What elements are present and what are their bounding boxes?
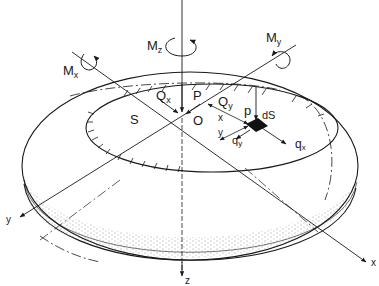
svg-text:My: My — [266, 30, 282, 47]
qx-arrow — [262, 128, 286, 144]
svg-text:Mx: Mx — [63, 63, 79, 80]
label-axis-x: x — [371, 257, 376, 268]
label-O: O — [193, 113, 203, 128]
label-axis-y: y — [6, 214, 11, 225]
label-p: p — [244, 103, 251, 118]
label-y-dim: y — [218, 127, 223, 138]
svg-text:qx: qx — [295, 137, 306, 152]
label-dS: dS — [262, 109, 275, 121]
plate-band — [22, 166, 358, 258]
label-P: P — [193, 88, 202, 103]
svg-text:Qx: Qx — [156, 88, 171, 105]
moments — [81, 38, 290, 70]
Mz-arc-icon — [166, 38, 196, 56]
footing-diagram: Mz Mx My Qx Qy P O S p dS x y qx qy x y … — [0, 0, 379, 286]
Mx-arc-icon — [81, 54, 97, 70]
label-x-dim: x — [218, 112, 223, 123]
svg-text:Mz: Mz — [147, 38, 163, 55]
svg-text:Qy: Qy — [218, 94, 233, 111]
y-axis — [20, 45, 296, 217]
label-axis-z: z — [185, 275, 190, 286]
label-S: S — [130, 112, 139, 127]
